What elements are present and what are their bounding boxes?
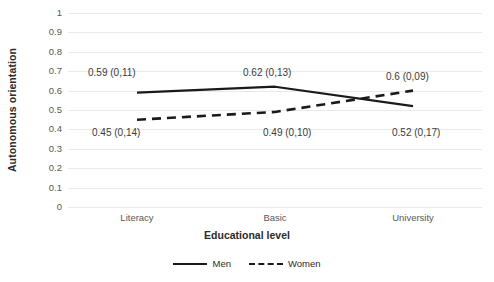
x-tick-label-literacy: Literacy — [87, 212, 187, 223]
x-tick-label-university: University — [363, 212, 463, 223]
data-label: 0.45 (0,14) — [92, 128, 140, 138]
legend-label-men: Men — [212, 258, 230, 269]
chart-legend: Men Women — [0, 258, 494, 269]
data-label: 0.6 (0,09) — [386, 72, 429, 82]
legend-line-icon-women — [249, 263, 283, 265]
data-label: 0.62 (0,13) — [243, 68, 291, 78]
data-label: 0.59 (0,11) — [88, 68, 136, 78]
series-line-men — [137, 87, 413, 106]
data-label: 0.52 (0,17) — [392, 128, 440, 138]
legend-line-icon-men — [173, 263, 207, 265]
legend-entry-women[interactable]: Women — [249, 258, 321, 269]
line-chart: Autonomous orientation 00.10.20.30.40.50… — [0, 0, 494, 282]
legend-entry-men[interactable]: Men — [173, 258, 230, 269]
data-label: 0.49 (0,10) — [263, 128, 311, 138]
legend-label-women: Women — [288, 258, 321, 269]
x-tick-label-basic: Basic — [225, 212, 325, 223]
x-axis-title: Educational level — [0, 229, 494, 241]
series-line-women — [137, 91, 413, 120]
